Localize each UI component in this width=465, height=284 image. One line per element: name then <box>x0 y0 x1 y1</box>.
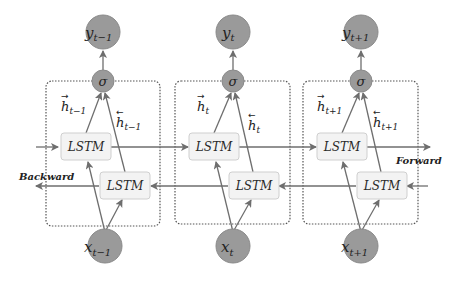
backward-lstm-label: LSTM <box>363 179 401 193</box>
forward-arrow-accent-icon: → <box>197 91 205 101</box>
input-to-backward-arrow <box>233 200 251 232</box>
forward-lstm-label: LSTM <box>195 140 233 154</box>
forward-lstm-label: LSTM <box>323 140 361 154</box>
sigma-label: σ <box>357 74 367 89</box>
backward-hidden-label: ht <box>248 118 260 135</box>
input-to-backward-arrow <box>361 200 379 232</box>
backward-arrow-accent-icon: ← <box>248 110 256 120</box>
forward-hidden-label: ht−1 <box>61 99 86 116</box>
input-to-backward-arrow <box>105 200 122 232</box>
forward-hidden-arrow <box>214 93 231 133</box>
forward-hidden-arrow <box>342 93 359 133</box>
backward-lstm-label: LSTM <box>235 179 273 193</box>
backward-lstm-label: LSTM <box>106 179 144 193</box>
sigma-label: σ <box>229 74 239 89</box>
forward-arrow-accent-icon: → <box>61 91 69 101</box>
forward-lstm-label: LSTM <box>67 140 105 154</box>
timestep-3: LSTM LSTM σ yt+1 xt+1 ht+1 → ht+1 ← <box>317 15 407 263</box>
timestep-2: LSTM LSTM σ yt xt ht → ht ← <box>189 15 279 263</box>
sigma-label: σ <box>99 74 109 89</box>
backward-hidden-label: ht−1 <box>116 115 141 132</box>
bilstm-diagram: Backward Forward LSTM LSTM σ yt−1 xt−1 h… <box>0 0 465 284</box>
forward-hidden-label: ht <box>197 99 209 116</box>
backward-label: Backward <box>18 171 74 182</box>
forward-hidden-arrow <box>86 93 101 133</box>
forward-hidden-label: ht+1 <box>317 99 342 116</box>
backward-arrow-accent-icon: ← <box>373 107 381 117</box>
forward-arrow-accent-icon: → <box>317 91 325 101</box>
backward-arrow-accent-icon: ← <box>116 107 124 117</box>
forward-label: Forward <box>395 155 442 166</box>
backward-hidden-label: ht+1 <box>373 115 398 132</box>
